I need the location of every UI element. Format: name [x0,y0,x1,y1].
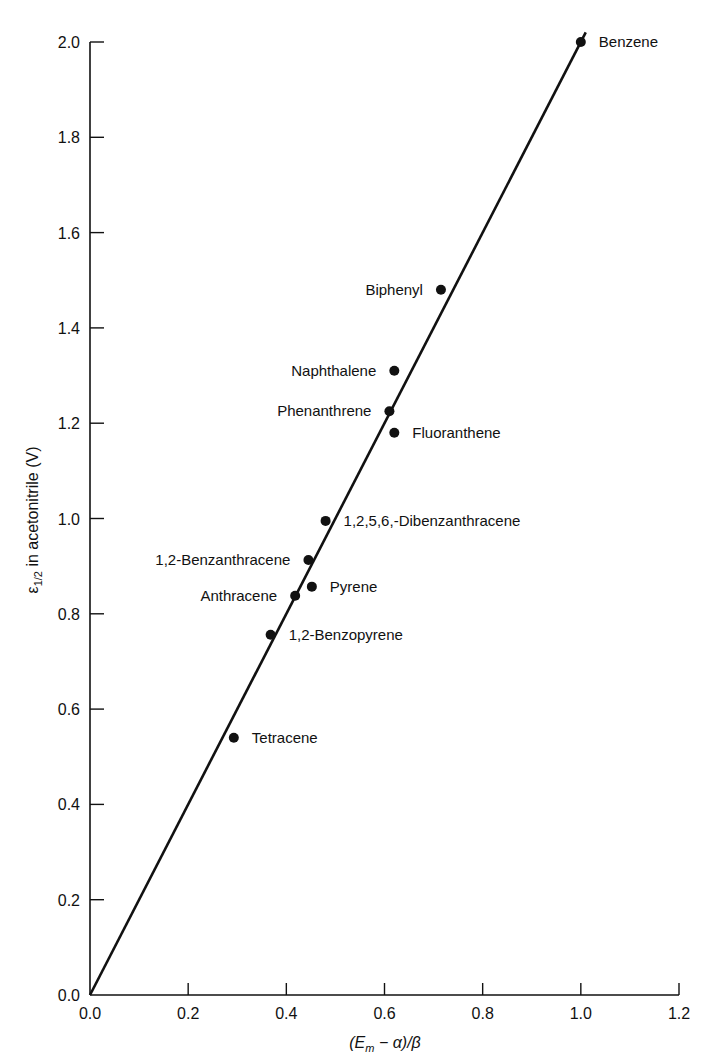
data-point [307,582,317,592]
y-tick-label: 0.6 [58,701,80,718]
y-tick-label: 1.8 [58,129,80,146]
x-tick-label: 1.0 [570,1005,592,1022]
point-label: Anthracene [200,587,277,604]
point-label: Naphthalene [291,362,376,379]
data-point [389,366,399,376]
data-point [290,591,300,601]
point-label: Benzene [599,33,658,50]
y-tick-label: 1.6 [58,225,80,242]
y-tick-label: 1.4 [58,320,80,337]
data-point [389,428,399,438]
point-label: Biphenyl [365,281,423,298]
point-labels: BenzeneBiphenylNaphthalenePhenanthreneFl… [155,33,658,746]
point-label: Fluoranthene [412,424,500,441]
point-label: Phenanthrene [277,402,371,419]
y-axis-title: ε1/2 in acetonitrile (V) [24,447,44,594]
data-point [436,285,446,295]
y-tick-label: 0.0 [58,987,80,1004]
y-tick-label: 1.2 [58,415,80,432]
x-tick-label: 0.2 [177,1005,199,1022]
data-point [266,630,276,640]
y-tick-label: 0.2 [58,892,80,909]
data-point [321,516,331,526]
x-axis-title: (Em − α)/β [349,1034,420,1054]
y-tick-label: 1.0 [58,511,80,528]
point-label: 1,2-Benzopyrene [289,626,403,643]
y-tick-label: 0.8 [58,606,80,623]
point-label: Pyrene [330,578,378,595]
point-label: Tetracene [252,729,318,746]
x-tick-label: 0.6 [373,1005,395,1022]
x-tick-label: 0.4 [275,1005,297,1022]
point-label: 1,2-Benzanthracene [155,551,290,568]
y-tick-label: 0.4 [58,796,80,813]
x-tick-label: 0.8 [472,1005,494,1022]
data-point [384,406,394,416]
data-point [303,555,313,565]
data-point [229,733,239,743]
x-tick-label: 0.0 [79,1005,101,1022]
x-tick-label: 1.2 [668,1005,690,1022]
data-point [576,37,586,47]
data-points [229,37,586,743]
chart: 0.00.20.40.60.81.01.20.00.20.40.60.81.01… [0,0,709,1062]
point-label: 1,2,5,6,-Dibenzanthracene [344,512,521,529]
y-tick-label: 2.0 [58,34,80,51]
